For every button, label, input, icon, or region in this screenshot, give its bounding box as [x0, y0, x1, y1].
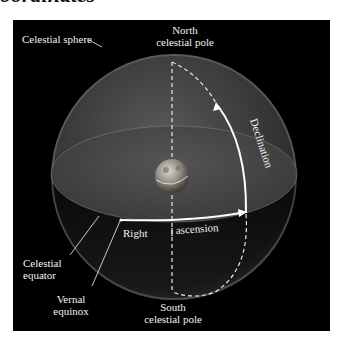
label-north-celestial-pole: North celestial pole	[146, 24, 224, 48]
label-vernal-equinox: Vernal equinox	[46, 293, 96, 317]
page-heading: oordinates	[0, 0, 343, 4]
label-celestial-sphere: Celestial sphere	[22, 33, 92, 45]
celestial-sphere-diagram: Declination ascension	[13, 20, 330, 331]
earth-globe	[155, 159, 189, 193]
celestial-coordinates-figure: Declination ascension North celestial po…	[13, 20, 330, 331]
label-celestial-equator: Celestial equator	[23, 257, 62, 281]
label-south-celestial-pole: South celestial pole	[133, 301, 213, 325]
label-right: Right	[123, 227, 147, 239]
